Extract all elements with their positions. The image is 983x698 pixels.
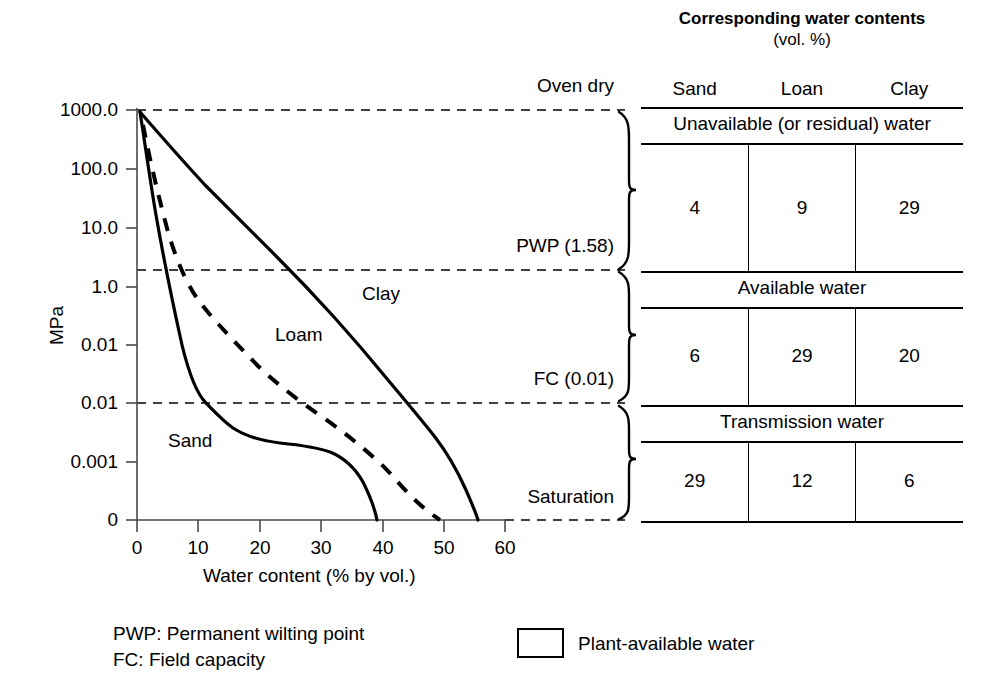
table-rule-below-band1-label <box>641 143 963 145</box>
y-tick-label-3: 1.0 <box>10 276 118 298</box>
table-band-label-transmission: Transmission water <box>641 411 963 433</box>
table-row: 29 12 6 <box>641 470 963 492</box>
table-column-header-clay: Clay <box>856 78 963 100</box>
x-tick-label-5: 50 <box>414 537 474 559</box>
table-cell-unavailable-clay: 29 <box>856 197 963 219</box>
table-column-header-loan: Loan <box>748 78 855 100</box>
y-tick-label-5: 0.01 <box>10 392 118 414</box>
curve-loam <box>143 125 440 520</box>
footer-abbreviations: PWP: Permanent wilting point FC: Field c… <box>113 621 364 672</box>
y-axis-ticks <box>126 110 137 520</box>
x-tick-label-6: 60 <box>475 537 535 559</box>
curve-sand <box>140 112 377 520</box>
curve-label-loam: Loam <box>275 324 323 346</box>
table-band-label-available: Available water <box>641 277 963 299</box>
zone-label-fc: FC (0.01) <box>420 368 614 390</box>
brace-transmission-water <box>619 406 636 519</box>
y-axis-title: MPa <box>46 306 68 345</box>
x-axis-title: Water content (% by vol.) <box>203 565 416 587</box>
brace-unavailable-water <box>619 112 636 269</box>
table-cell-available-loan: 29 <box>748 345 855 367</box>
table-cell-available-clay: 20 <box>856 345 963 367</box>
table-title: Corresponding water contents <box>641 8 963 29</box>
zone-label-pwp: PWP (1.58) <box>420 235 614 257</box>
table-cell-available-sand: 6 <box>641 345 748 367</box>
legend-label-plant-available-water: Plant-available water <box>578 633 754 655</box>
curve-label-sand: Sand <box>168 430 212 452</box>
table-cell-transmission-loan: 12 <box>748 470 855 492</box>
y-tick-label-7: 0 <box>10 509 118 531</box>
table-divider-2a <box>748 309 749 405</box>
zone-label-saturation: Saturation <box>420 486 614 508</box>
x-tick-label-2: 20 <box>230 537 290 559</box>
table-divider-1a <box>748 145 749 271</box>
table-rule-below-band2-label <box>641 307 963 309</box>
table-title-block: Corresponding water contents (vol. %) <box>641 8 963 51</box>
x-tick-label-0: 0 <box>107 537 167 559</box>
table-row: 4 9 29 <box>641 197 963 219</box>
curve-label-clay: Clay <box>362 283 400 305</box>
table-divider-3b <box>855 443 856 521</box>
table-cell-transmission-clay: 6 <box>856 470 963 492</box>
x-tick-label-3: 30 <box>291 537 351 559</box>
table-band-label-unavailable: Unavailable (or residual) water <box>641 113 963 135</box>
table-column-headers: Sand Loan Clay <box>641 78 963 100</box>
footer-abbrev-pwp: PWP: Permanent wilting point <box>113 621 364 647</box>
table-cell-transmission-sand: 29 <box>641 470 748 492</box>
table-rule-bottom <box>641 521 963 523</box>
table-row: 6 29 20 <box>641 345 963 367</box>
curve-clay <box>140 112 478 520</box>
y-tick-label-1: 100.0 <box>10 158 118 180</box>
legend-swatch-plant-available-water <box>517 628 564 658</box>
x-tick-label-4: 40 <box>353 537 413 559</box>
table-cell-unavailable-loan: 9 <box>748 197 855 219</box>
brace-available-water <box>619 272 636 401</box>
table-column-header-sand: Sand <box>641 78 748 100</box>
footer-abbrev-fc: FC: Field capacity <box>113 647 364 673</box>
table-divider-3a <box>748 443 749 521</box>
x-tick-label-1: 10 <box>168 537 228 559</box>
y-tick-label-6: 0.001 <box>10 451 118 473</box>
table-rule-below-band2-values <box>641 405 963 407</box>
table-divider-2b <box>855 309 856 405</box>
table-rule-below-band1-values <box>641 271 963 273</box>
table-divider-1b <box>855 145 856 271</box>
table-cell-unavailable-sand: 4 <box>641 197 748 219</box>
table-subtitle: (vol. %) <box>641 29 963 50</box>
y-tick-label-0: 1000.0 <box>10 99 118 121</box>
table-rule-below-band3-label <box>641 441 963 443</box>
y-tick-label-2: 10.0 <box>10 217 118 239</box>
x-axis-ticks <box>137 520 505 532</box>
table-rule-top <box>641 107 963 109</box>
zone-label-oven-dry: Oven dry <box>420 75 614 97</box>
soil-water-retention-figure: 1000.0 100.0 10.0 1.0 0.01 0.01 0.001 0 … <box>0 0 983 698</box>
